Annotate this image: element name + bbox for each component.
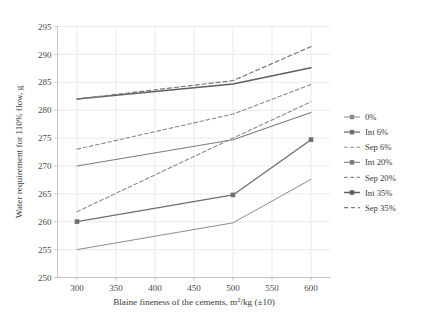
plot-background: [0, 0, 425, 322]
legend-marker: [350, 191, 354, 195]
y-tick-label: 290: [38, 50, 52, 60]
y-tick-label: 280: [38, 105, 52, 115]
x-tick-label: 400: [148, 283, 162, 293]
y-tick-label: 295: [38, 22, 52, 32]
data-point-marker: [75, 220, 79, 224]
data-point-marker: [231, 193, 235, 197]
x-tick-label: 350: [109, 283, 123, 293]
legend-marker: [350, 115, 354, 119]
legend-label-sep-35[interactable]: Sep 35%: [365, 203, 396, 213]
legend-label-sep-20[interactable]: Sep 20%: [365, 173, 396, 183]
y-tick-label: 255: [38, 245, 52, 255]
x-tick-label: 550: [265, 283, 279, 293]
x-tick-label: 500: [226, 283, 240, 293]
y-tick-label: 285: [38, 77, 52, 87]
x-tick-label: 600: [304, 283, 318, 293]
legend-label-int-6[interactable]: Int 6%: [365, 127, 388, 137]
legend-label-int-35[interactable]: Int 35%: [365, 188, 392, 198]
y-tick-label: 260: [38, 217, 52, 227]
y-tick-label: 265: [38, 189, 52, 199]
chart-figure: 2502552602652702752802852902953003504004…: [0, 0, 425, 322]
y-tick-label: 270: [38, 161, 52, 171]
legend-marker: [350, 130, 354, 134]
x-tick-label: 300: [70, 283, 84, 293]
x-tick-label: 450: [187, 283, 201, 293]
y-axis-title: Water requirement for 110% flow, g: [14, 85, 24, 218]
legend-label-int-20[interactable]: Int 20%: [365, 157, 392, 167]
x-axis-title: Blaine fineness of the cements, m2/kg (±…: [113, 296, 275, 307]
data-point-marker: [309, 138, 313, 142]
line-chart: 2502552602652702752802852902953003504004…: [0, 0, 425, 322]
legend-label-sep-6[interactable]: Sep 6%: [365, 142, 392, 152]
legend-marker: [350, 160, 354, 164]
y-tick-label: 250: [38, 273, 52, 283]
legend-label-0[interactable]: 0%: [365, 112, 376, 122]
y-tick-label: 275: [38, 133, 52, 143]
